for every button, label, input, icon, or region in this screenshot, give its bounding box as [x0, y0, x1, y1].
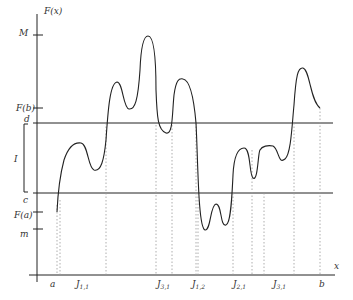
label-Fb: F(b): [15, 103, 36, 113]
interval-i-bracket: [24, 124, 28, 192]
function-diagram: F(x) M F(b) d I c F(a) m x a J1,1 J3,1 J…: [0, 0, 353, 300]
label-J12: J1,2: [190, 279, 205, 290]
label-m: m: [20, 229, 29, 239]
label-b: b: [319, 279, 325, 289]
label-d: d: [24, 114, 30, 124]
function-curve: [57, 36, 320, 230]
x-axis-label: x: [334, 261, 339, 271]
label-I: I: [13, 154, 18, 164]
label-M: M: [18, 28, 29, 38]
label-J11: J1,1: [74, 279, 89, 290]
label-a: a: [50, 279, 55, 289]
label-J21: J2,1: [231, 279, 246, 290]
label-c: c: [23, 195, 28, 205]
y-axis-label: F(x): [43, 6, 63, 16]
label-J31-first: J3,1: [155, 279, 170, 290]
label-Fa: F(a): [13, 210, 33, 220]
dotted-guides: [57, 108, 320, 275]
label-J31-second: J3,1: [271, 279, 286, 290]
